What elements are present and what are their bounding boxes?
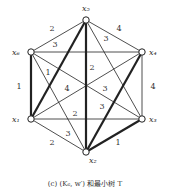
edge-weight-x6-x1: 1 xyxy=(16,82,21,91)
edge-x5-x1-tree xyxy=(31,20,86,119)
node-x4 xyxy=(139,49,145,55)
node-x5 xyxy=(83,17,89,23)
edge-weight-x1-x2: 2 xyxy=(49,138,54,147)
edge-weight-x5-x2: 2 xyxy=(89,63,94,72)
node-x6 xyxy=(28,49,34,55)
edge-x1-x2 xyxy=(31,119,86,152)
node-label-x5: x₅ xyxy=(82,4,91,13)
edge-weight-x2-x3: 1 xyxy=(115,138,120,147)
node-label-x6: x₆ xyxy=(12,48,21,57)
edge-weight-x5-x3: 3 xyxy=(103,34,108,43)
edge-weight-x6-x4: 3 xyxy=(52,40,57,49)
caption: (c) (K₆, w′) 和最小树 T xyxy=(48,179,123,188)
node-label-x4: x₄ xyxy=(149,48,157,57)
node-label-x1: x₁ xyxy=(12,115,20,124)
edge-weight-x1-x3: 2 xyxy=(72,109,77,118)
node-label-x3: x₃ xyxy=(149,115,157,124)
edge-weight-x4-x2: 3 xyxy=(99,102,104,111)
edge-weight-x5-x1: 1 xyxy=(45,68,50,77)
node-label-x2: x₂ xyxy=(89,156,97,165)
edge-weight-x5-x6: 2 xyxy=(49,24,54,33)
edge-weight-x4-x3: 4 xyxy=(150,82,155,91)
node-x3 xyxy=(139,116,145,122)
edges xyxy=(31,20,142,152)
edge-weight-x5-x4: 4 xyxy=(116,24,121,33)
graph-k6: 234314124332321 x₅x₆x₄x₁x₃x₂ (c) (K₆, w′… xyxy=(0,0,170,191)
node-x2 xyxy=(83,149,89,155)
edge-weight-x1-x4: 4 xyxy=(64,84,69,93)
edge-x5-x4 xyxy=(86,20,142,52)
node-x1 xyxy=(28,116,34,122)
edge-weight-x6-x2: 3 xyxy=(65,129,70,138)
edge-weight-x6-x3: 3 xyxy=(102,84,107,93)
